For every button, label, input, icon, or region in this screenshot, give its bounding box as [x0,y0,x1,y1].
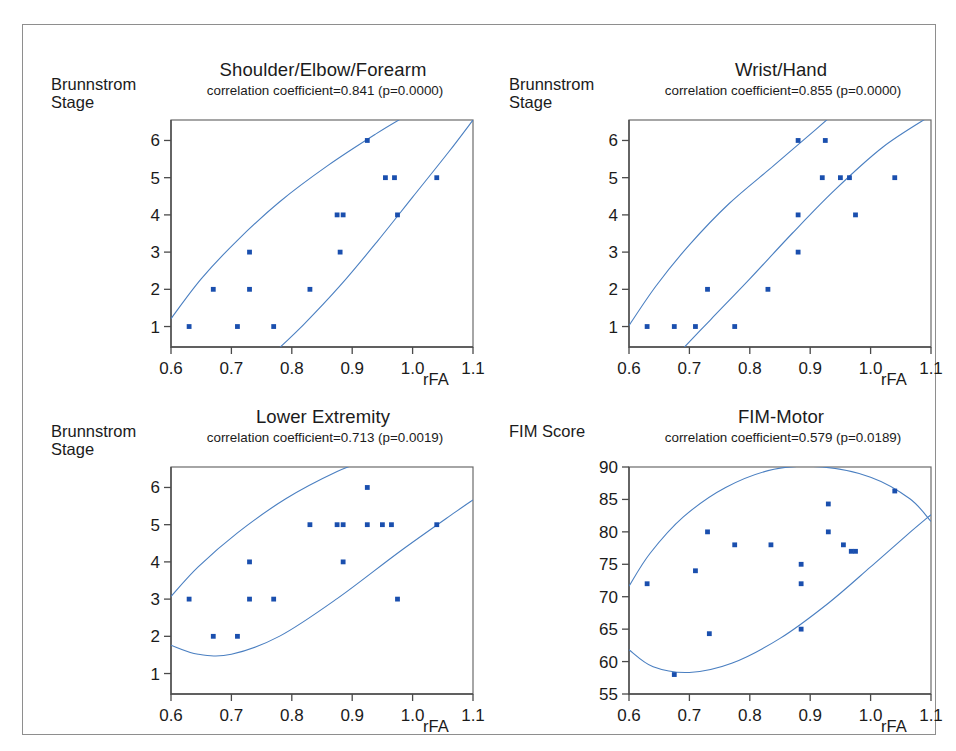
scatter-plot-wrist-hand: 0.60.70.80.91.01.1123456 [481,25,939,389]
x-tick-label: 0.6 [617,706,641,725]
data-point [247,559,252,564]
plot-frame [629,467,931,694]
data-point [380,522,385,527]
y-tick-label: 80 [599,523,618,542]
plot-axes [171,120,473,347]
confidence-curve-lower [629,515,931,673]
data-point [308,522,313,527]
data-point [693,324,698,329]
y-tick-label: 5 [609,169,618,188]
data-point [707,631,712,636]
data-point [365,485,370,490]
x-tick-label: 1.1 [919,706,943,725]
x-tick-label: 0.7 [220,706,244,725]
plot-axes [629,467,931,694]
data-point [826,502,831,507]
data-point [705,529,710,534]
plot-frame [629,120,931,347]
data-point [847,175,852,180]
data-point [247,250,252,255]
data-point [187,597,192,602]
x-tick-label: 0.8 [738,706,762,725]
data-point [271,324,276,329]
data-point [341,522,346,527]
y-tick-label: 4 [609,206,618,225]
data-point [799,562,804,567]
y-tick-label: 3 [609,243,618,262]
data-point [187,324,192,329]
data-point [849,549,854,554]
data-point [389,522,394,527]
data-point [799,627,804,632]
data-point [796,138,801,143]
data-point [247,597,252,602]
data-point [271,597,276,602]
data-point [705,287,710,292]
data-point [308,287,313,292]
confidence-band [629,466,931,672]
chart-panel-fim-motor: FIM-Motorcorrelation coefficient=0.579 (… [481,372,939,736]
data-point [434,175,439,180]
data-point [335,522,340,527]
confidence-curve-upper [629,466,931,586]
data-point [853,549,858,554]
data-point [335,212,340,217]
y-tick-label: 6 [151,478,160,497]
y-tick-label: 6 [151,131,160,150]
plot-frame [171,120,473,347]
data-point-group [645,489,897,677]
confidence-band [629,113,931,356]
y-tick-label: 4 [151,553,160,572]
data-point [766,287,771,292]
data-point [341,559,346,564]
chart-panel-lower-extremity: Lower Extremitycorrelation coefficient=0… [23,372,481,736]
confidence-curve-upper [629,113,834,325]
confidence-band [171,115,473,356]
y-tick-label: 2 [609,280,618,299]
y-tick-label: 75 [599,555,618,574]
data-point [826,529,831,534]
x-tick-label: 0.6 [159,706,183,725]
figure-outer-frame: Shoulder/Elbow/Forearmcorrelation coeffi… [22,24,936,735]
data-point [672,324,677,329]
data-point [820,175,825,180]
data-point [235,634,240,639]
data-point [823,138,828,143]
y-tick-label: 55 [599,685,618,704]
scatter-plot-fim-motor: 0.60.70.80.91.01.15560657075808590 [481,372,939,736]
y-tick-label: 5 [151,516,160,535]
chart-panel-shoulder-elbow-forearm: Shoulder/Elbow/Forearmcorrelation coeffi… [23,25,481,389]
data-point [365,138,370,143]
y-tick-label: 3 [151,243,160,262]
y-tick-label: 85 [599,490,618,509]
y-tick-label: 90 [599,458,618,477]
y-tick-label: 60 [599,653,618,672]
scatter-plot-shoulder-elbow-forearm: 0.60.70.80.91.01.1123456 [23,25,481,389]
y-tick-label: 6 [609,131,618,150]
plot-frame [171,467,473,694]
y-tick-label: 3 [151,590,160,609]
y-tick-label: 5 [151,169,160,188]
data-point [732,542,737,547]
data-point [247,287,252,292]
plot-axes [171,467,473,694]
data-point [796,250,801,255]
data-point [892,489,897,494]
data-point [395,212,400,217]
data-point [693,568,698,573]
data-point [365,522,370,527]
y-tick-label: 65 [599,620,618,639]
confidence-curve-upper [171,115,407,318]
y-tick-label: 70 [599,588,618,607]
data-point [338,250,343,255]
plot-axes [629,120,931,347]
y-tick-label: 1 [609,318,618,337]
confidence-curve-upper [171,459,370,596]
data-point [841,542,846,547]
data-point [434,522,439,527]
data-point [383,175,388,180]
x-tick-label: 0.9 [340,706,364,725]
x-tick-label: 0.9 [798,706,822,725]
y-tick-label: 1 [151,318,160,337]
data-point [395,597,400,602]
